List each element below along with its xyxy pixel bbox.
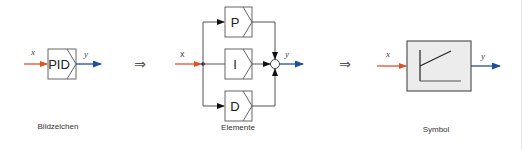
p-block: P bbox=[225, 7, 252, 37]
implies-arrow-icon: ⇒ bbox=[134, 56, 146, 72]
p-to-sum bbox=[252, 22, 275, 59]
panel-elemente: x P I D y Elemente bbox=[175, 7, 303, 132]
output-label-y: y bbox=[83, 49, 88, 59]
caption-bildzeichen: Bildzeichen bbox=[38, 122, 79, 131]
pid-block-label: PID bbox=[48, 57, 70, 72]
panel-bildzeichen: x PID y Bildzeichen bbox=[24, 47, 101, 131]
pid-symbol-block bbox=[407, 41, 471, 91]
p-block-label: P bbox=[231, 15, 240, 30]
input-label-x: x bbox=[30, 47, 35, 57]
implies-arrow-icon: ⇒ bbox=[339, 56, 351, 72]
caption-symbol: Symbol bbox=[423, 125, 450, 134]
input-label-x: x bbox=[180, 49, 185, 59]
output-label-y: y bbox=[480, 51, 485, 61]
i-block-label: I bbox=[233, 57, 237, 72]
branch-to-d bbox=[203, 64, 224, 106]
output-label-y: y bbox=[284, 49, 289, 59]
d-block: D bbox=[225, 91, 252, 121]
input-label-x: x bbox=[385, 49, 390, 59]
summing-junction bbox=[271, 60, 280, 69]
i-block: I bbox=[225, 49, 252, 79]
pid-diagram: x PID y Bildzeichen ⇒ x P I bbox=[0, 0, 525, 150]
pid-block: PID bbox=[48, 49, 76, 79]
d-to-sum bbox=[252, 69, 275, 106]
caption-elemente: Elemente bbox=[221, 123, 255, 132]
panel-symbol: x y Symbol bbox=[377, 41, 500, 134]
page-edge-divider bbox=[521, 0, 522, 150]
branch-to-p bbox=[203, 22, 224, 64]
d-block-label: D bbox=[230, 99, 239, 114]
